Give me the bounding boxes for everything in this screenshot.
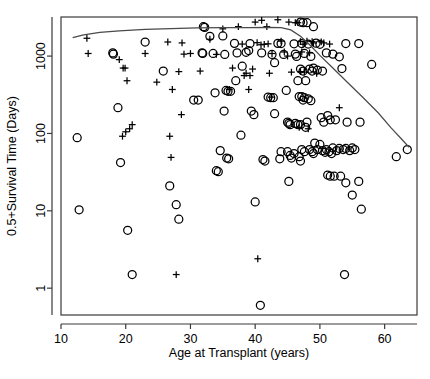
data-point-plus bbox=[164, 39, 171, 46]
data-point-circle bbox=[172, 201, 180, 209]
data-point-circle bbox=[302, 77, 310, 85]
data-point-plus bbox=[181, 51, 188, 58]
data-point-circle bbox=[271, 59, 279, 67]
data-point-plus bbox=[336, 104, 343, 111]
data-point-circle bbox=[307, 52, 315, 60]
data-point-circle bbox=[351, 146, 359, 154]
data-points-deceased bbox=[73, 18, 411, 309]
data-point-plus bbox=[142, 50, 149, 57]
x-tick-label: 20 bbox=[119, 332, 133, 346]
data-point-circle bbox=[357, 205, 365, 213]
x-tick-label: 60 bbox=[378, 332, 392, 346]
data-point-circle bbox=[230, 39, 238, 47]
data-point-plus bbox=[245, 86, 252, 93]
data-point-circle bbox=[237, 131, 245, 139]
data-point-circle bbox=[338, 65, 346, 73]
data-point-circle bbox=[356, 118, 364, 126]
data-point-plus bbox=[285, 19, 292, 26]
data-point-circle bbox=[159, 67, 167, 75]
data-point-circle bbox=[128, 271, 136, 279]
data-point-plus bbox=[179, 40, 186, 47]
data-point-plus bbox=[83, 35, 90, 42]
y-axis-title: 0.5+Survival Time (Days) bbox=[5, 96, 19, 236]
data-point-plus bbox=[153, 79, 160, 86]
data-point-plus bbox=[265, 40, 272, 47]
lowess-curve-path bbox=[73, 27, 410, 147]
data-point-circle bbox=[258, 49, 266, 57]
data-point-circle bbox=[290, 40, 298, 48]
data-point-circle bbox=[220, 107, 228, 115]
x-tick-label: 30 bbox=[184, 332, 198, 346]
data-point-circle bbox=[232, 77, 240, 85]
data-point-plus bbox=[122, 128, 129, 135]
chart-canvas: 102030405060 1101001000 Age at Transplan… bbox=[0, 0, 430, 379]
data-point-plus bbox=[266, 70, 273, 77]
data-point-circle bbox=[342, 179, 350, 187]
data-point-plus bbox=[263, 23, 270, 30]
data-points-censored bbox=[83, 16, 342, 278]
data-point-circle bbox=[294, 77, 302, 85]
data-point-plus bbox=[187, 50, 194, 57]
data-point-circle bbox=[348, 191, 356, 199]
x-axis-title: Age at Transplant (years) bbox=[169, 346, 309, 360]
y-tick-label: 1 bbox=[34, 285, 48, 292]
lowess-smoother-curve bbox=[73, 27, 410, 147]
data-point-circle bbox=[309, 23, 317, 31]
data-point-plus bbox=[197, 68, 204, 75]
y-tick-label: 1000 bbox=[34, 42, 48, 70]
plot-frame bbox=[61, 17, 417, 315]
scatter-plot-figure: 102030405060 1101001000 Age at Transplan… bbox=[0, 0, 430, 379]
data-point-plus bbox=[235, 23, 242, 30]
data-point-circle bbox=[166, 182, 174, 190]
data-point-circle bbox=[271, 110, 279, 118]
data-point-circle bbox=[341, 271, 349, 279]
data-point-circle bbox=[318, 67, 326, 75]
x-axis: 102030405060 bbox=[54, 324, 417, 346]
data-point-circle bbox=[331, 116, 339, 124]
data-point-circle bbox=[368, 60, 376, 68]
data-point-circle bbox=[355, 177, 363, 185]
data-point-plus bbox=[219, 25, 226, 32]
data-point-plus bbox=[119, 133, 126, 140]
y-tick-label: 100 bbox=[34, 123, 48, 144]
data-point-plus bbox=[85, 50, 92, 57]
data-point-circle bbox=[221, 50, 229, 58]
data-point-plus bbox=[169, 86, 176, 93]
data-point-plus bbox=[175, 68, 182, 75]
data-point-circle bbox=[175, 215, 183, 223]
data-point-circle bbox=[282, 86, 290, 94]
data-point-circle bbox=[251, 198, 259, 206]
data-point-circle bbox=[73, 134, 81, 142]
data-point-circle bbox=[211, 89, 219, 97]
data-point-circle bbox=[219, 32, 227, 40]
data-point-plus bbox=[166, 133, 173, 140]
data-point-circle bbox=[293, 52, 301, 60]
data-point-circle bbox=[342, 40, 350, 48]
data-point-plus bbox=[124, 77, 131, 84]
data-point-plus bbox=[252, 19, 259, 26]
data-point-plus bbox=[178, 111, 185, 118]
data-point-circle bbox=[141, 38, 149, 46]
data-point-circle bbox=[256, 301, 264, 309]
data-point-plus bbox=[168, 154, 175, 161]
x-tick-label: 40 bbox=[248, 332, 262, 346]
data-point-circle bbox=[307, 97, 315, 105]
data-point-plus bbox=[229, 65, 236, 72]
data-point-plus bbox=[173, 271, 180, 278]
data-point-circle bbox=[242, 48, 250, 56]
data-point-circle bbox=[343, 118, 351, 126]
data-point-circle bbox=[392, 153, 400, 161]
data-point-plus bbox=[206, 36, 213, 43]
data-point-plus bbox=[281, 49, 288, 56]
data-point-plus bbox=[278, 38, 285, 45]
data-point-plus bbox=[326, 41, 333, 48]
data-point-circle bbox=[75, 206, 83, 214]
data-point-circle bbox=[124, 226, 132, 234]
y-axis: 1101001000 bbox=[34, 17, 52, 315]
data-point-circle bbox=[216, 147, 224, 155]
data-point-plus bbox=[254, 255, 261, 262]
x-tick-label: 50 bbox=[313, 332, 327, 346]
y-tick-label: 10 bbox=[34, 204, 48, 218]
data-point-plus bbox=[288, 69, 295, 76]
data-point-circle bbox=[238, 62, 246, 70]
